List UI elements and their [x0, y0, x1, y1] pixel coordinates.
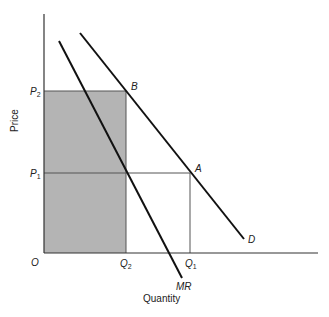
origin-label: O — [31, 257, 39, 268]
shaded-region — [44, 91, 126, 253]
demand-label: D — [248, 234, 255, 245]
monopoly-diagram: B A D MR P2 P1 Q2 Q1 O Quantity Price — [0, 0, 329, 317]
mr-label: MR — [176, 281, 192, 292]
point-a-label: A — [194, 163, 202, 174]
p2-label: P2 — [30, 86, 41, 98]
x-axis-title: Quantity — [143, 293, 180, 304]
y-axis-title: Price — [9, 109, 20, 132]
p1-label: P1 — [30, 168, 41, 180]
q2-label: Q2 — [120, 258, 132, 270]
q1-label: Q1 — [185, 258, 197, 270]
point-b-label: B — [131, 81, 138, 92]
